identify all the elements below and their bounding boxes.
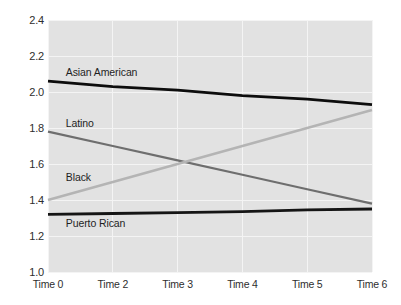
x-axis-tick-label: Time 3 bbox=[162, 278, 193, 290]
x-axis-tick-label: Time 0 bbox=[33, 278, 64, 290]
line-chart: Perceived discrimination by peers 1.01.2… bbox=[0, 0, 401, 305]
x-axis-tick-label: Time 5 bbox=[292, 278, 323, 290]
series-label: Latino bbox=[66, 117, 94, 129]
series-label: Puerto Rican bbox=[66, 217, 126, 229]
y-axis-tick-label: 1.2 bbox=[18, 230, 44, 242]
x-axis-tick-label: Time 4 bbox=[227, 278, 258, 290]
series-label: Black bbox=[66, 171, 91, 183]
y-axis-tick-label: 1.4 bbox=[18, 194, 44, 206]
y-axis-tick-label: 1.6 bbox=[18, 158, 44, 170]
y-axis-tick-label: 2.2 bbox=[18, 50, 44, 62]
series-line bbox=[48, 110, 372, 200]
y-axis-tick-label: 1.0 bbox=[18, 266, 44, 278]
y-axis-tick-label: 1.8 bbox=[18, 122, 44, 134]
series-line bbox=[48, 132, 372, 204]
series-line bbox=[48, 209, 372, 214]
x-axis-tick-label: Time 6 bbox=[357, 278, 388, 290]
y-axis-tick-label: 2.4 bbox=[18, 14, 44, 26]
x-axis-tick-label: Time 2 bbox=[98, 278, 129, 290]
plot-area: Asian AmericanLatinoBlackPuerto Rican bbox=[48, 20, 372, 272]
series-label: Asian American bbox=[66, 66, 138, 78]
series-line bbox=[48, 81, 372, 104]
y-axis-tick-label: 2.0 bbox=[18, 86, 44, 98]
y-axis-tick-labels: 1.01.21.41.61.82.02.22.4 bbox=[18, 0, 44, 305]
series-lines bbox=[48, 20, 372, 272]
